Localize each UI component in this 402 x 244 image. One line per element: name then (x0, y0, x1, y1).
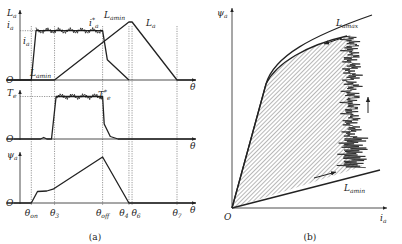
caption-b: (b) (304, 232, 317, 242)
y-label-b: ψa (217, 8, 228, 19)
label-Lamin-b: Lamin (343, 183, 365, 194)
label-La: La (145, 18, 156, 29)
y-label-torque: Te (7, 88, 17, 99)
panel-b: ψaiaOLamaxLamin (b) (217, 8, 387, 242)
caption-a: (a) (89, 232, 101, 242)
x-label-theta: θ (190, 82, 196, 92)
origin-label: O (6, 198, 14, 208)
label-Lamax: Lamax (335, 18, 359, 29)
label-La-peak: Lamin (103, 10, 125, 21)
y-label-flux-linkage: ψa (7, 150, 18, 161)
tick-theta_3: θ3 (50, 208, 59, 219)
origin-label-b: O (224, 212, 232, 222)
label-ia-level: ia (7, 20, 14, 31)
series-psi_a (7, 157, 196, 203)
label-Te-ref: T*e (98, 88, 111, 101)
x-label-theta: θ (190, 205, 196, 215)
tick-theta_7: θ7 (172, 208, 181, 219)
y-label-inductance-current: La (6, 8, 17, 19)
label-ia: ia (23, 36, 30, 47)
panel-a-curves (7, 22, 196, 203)
tick-theta_on: θon (25, 208, 38, 219)
x-label-b: ia (380, 213, 387, 224)
panel-a-axes (14, 10, 196, 204)
origin-label: O (6, 75, 14, 85)
label-Lamin: Lamin (29, 68, 51, 79)
tick-theta_4: θ4 (119, 208, 128, 219)
series-T_e (7, 97, 196, 140)
figure: OLaθOTeθOψaθiaiai*aLaminLaLaminT*eθonθ3θ… (0, 0, 402, 244)
tick-theta_6: θ6 (131, 208, 140, 219)
panel-a: OLaθOTeθOψaθiaiai*aLaminLaLaminT*eθonθ3θ… (6, 8, 196, 242)
x-label-theta: θ (190, 141, 196, 151)
label-ia-ref: i*a (89, 16, 99, 29)
panel-b-content: ψaiaOLamaxLamin (217, 8, 387, 224)
origin-label: O (6, 134, 14, 144)
tick-theta_off: θoff (96, 208, 111, 220)
